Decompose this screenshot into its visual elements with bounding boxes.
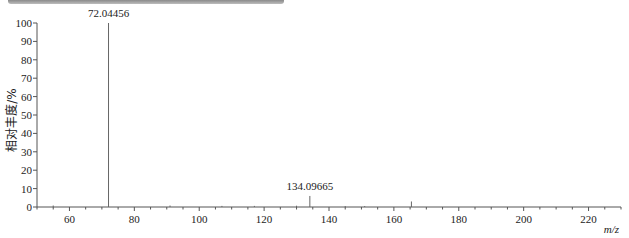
y-tick-label: 10 — [21, 183, 33, 195]
y-tick-label: 80 — [21, 54, 33, 66]
x-tick-label: 200 — [515, 213, 532, 225]
y-axis-title: 相对丰度/% — [4, 88, 19, 151]
y-tick-label: 100 — [16, 17, 33, 29]
peaks: 72.04456134.09665 — [53, 7, 411, 207]
y-tick-label: 70 — [21, 72, 33, 84]
peak-label: 134.09665 — [286, 180, 333, 192]
x-axis-title: m/z — [604, 223, 620, 235]
x-tick-label: 160 — [386, 213, 403, 225]
x-tick-label: 60 — [64, 213, 76, 225]
mass-spectrum-chart: 0102030405060708090100 60801001201401601… — [0, 0, 629, 238]
y-tick-label: 90 — [21, 35, 33, 47]
y-tick-label: 60 — [21, 91, 33, 103]
y-tick-label: 20 — [21, 164, 33, 176]
peak-label: 72.04456 — [88, 7, 130, 19]
x-axis: 6080100120140160180200220 — [37, 207, 621, 225]
y-tick-label: 0 — [27, 201, 33, 213]
x-tick-label: 120 — [256, 213, 273, 225]
y-tick-label: 30 — [21, 146, 33, 158]
x-tick-label: 100 — [191, 213, 208, 225]
x-tick-label: 180 — [451, 213, 468, 225]
y-tick-label: 40 — [21, 127, 33, 139]
x-tick-label: 80 — [129, 213, 141, 225]
x-tick-label: 140 — [321, 213, 338, 225]
x-tick-label: 220 — [580, 213, 597, 225]
y-tick-label: 50 — [21, 109, 33, 121]
